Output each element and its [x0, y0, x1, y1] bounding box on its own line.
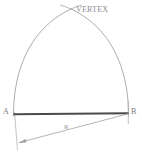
radius-label: R	[64, 124, 69, 131]
diagram-canvas	[0, 0, 142, 156]
extension-line-a	[15, 112, 18, 150]
arch-construction-diagram: VERTEX A B R	[0, 0, 142, 156]
vertex-label: VERTEX	[76, 6, 108, 14]
dimension-arrowhead-icon	[18, 139, 27, 143]
arc-from-a-icon	[72, 9, 129, 115]
point-a-label: A	[3, 108, 9, 116]
point-b-label: B	[131, 108, 137, 116]
chord-ab	[14, 113, 129, 114]
arc-from-b-icon	[13, 9, 70, 116]
dimension-line-r	[20, 114, 129, 143]
arc-crossing-tail-right-icon	[61, 5, 72, 9]
